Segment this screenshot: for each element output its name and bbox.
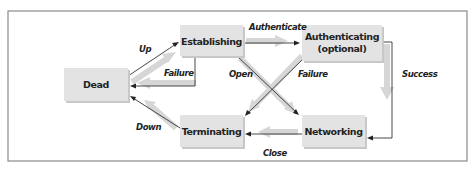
state-label-authenticating: Authenticating	[305, 31, 379, 42]
state-authenticating: Authenticating (optional)	[302, 25, 384, 63]
arrowhead-success	[367, 136, 373, 141]
edge-label-failure-establishing: Failure	[164, 68, 194, 78]
arrow-open	[237, 56, 297, 113]
arrowhead-down	[130, 96, 136, 101]
state-label-establishing: Establishing	[181, 36, 242, 47]
state-establishing: Establishing	[180, 25, 245, 58]
edge-label-up: Up	[139, 44, 152, 54]
edge-label-down: Down	[136, 122, 162, 132]
arrowhead-close	[245, 132, 251, 137]
state-label-authenticating-optional: (optional)	[318, 43, 367, 54]
state-label-terminating: Terminating	[182, 126, 242, 137]
arrow-failure-authenticating	[247, 58, 304, 114]
edge-label-authenticate: Authenticate	[248, 22, 307, 32]
state-diagram: Dead Establishing Authenticating (option…	[0, 0, 476, 177]
state-label-networking: Networking	[304, 126, 362, 137]
edge-label-open: Open	[229, 69, 253, 79]
state-terminating: Terminating	[180, 115, 245, 149]
ghost-arrowhead-close	[258, 126, 270, 138]
arrowhead-authenticate	[294, 41, 300, 46]
edge-label-failure-authenticating: Failure	[298, 69, 328, 79]
state-label-dead: Dead	[83, 79, 109, 90]
state-dead: Dead	[64, 68, 130, 103]
edge-label-close: Close	[263, 148, 287, 158]
state-networking: Networking	[302, 115, 367, 149]
arrowhead-failure-establishing	[130, 84, 136, 89]
edge-label-success: Success	[402, 69, 438, 79]
ghost-arrowhead-authenticate	[275, 35, 288, 47]
